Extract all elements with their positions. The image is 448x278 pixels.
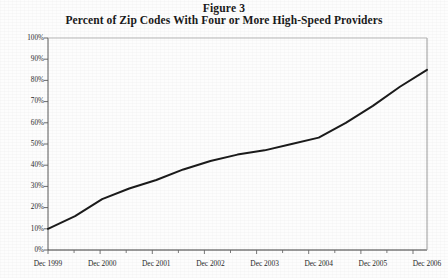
x-tick-label: Dec 2003 — [250, 259, 279, 268]
x-tick-label: Dec 2001 — [142, 259, 171, 268]
x-tick-label: Dec 2002 — [196, 259, 225, 268]
figure-container: Figure 3 Percent of Zip Codes With Four … — [0, 0, 448, 278]
x-tick-label: Dec 1999 — [34, 259, 63, 268]
x-tick-label: Dec 2004 — [304, 259, 333, 268]
x-tick-label: Dec 2006 — [413, 259, 442, 268]
x-tick-label: Dec 2000 — [88, 259, 117, 268]
x-tick-label: Dec 2005 — [359, 259, 388, 268]
plot-area: 100%90%80%70%60%50%40%30%20%10%0% Dec 19… — [0, 0, 448, 278]
x-axis-tick-labels: Dec 1999Dec 2000Dec 2001Dec 2002Dec 2003… — [0, 0, 448, 278]
